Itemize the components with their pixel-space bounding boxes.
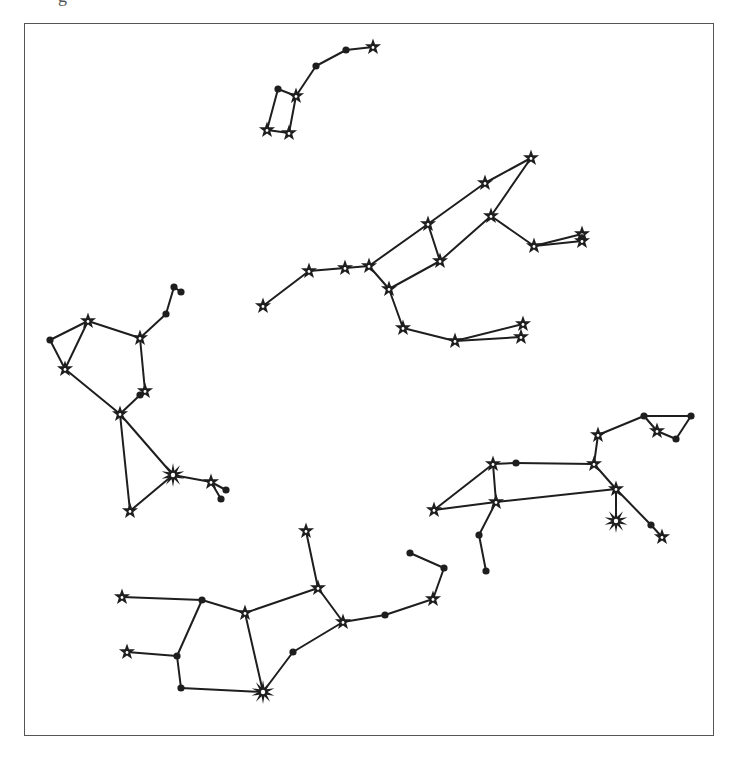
star-icon (365, 39, 381, 54)
star-icon (447, 333, 463, 348)
constellation-canvas (0, 0, 738, 760)
star-icon (337, 260, 353, 275)
constellation-line (50, 340, 65, 369)
constellation-hercules (46, 283, 229, 517)
constellation-line (433, 568, 444, 599)
constellation-line (479, 535, 486, 571)
star-icon (526, 238, 542, 253)
star-icon (80, 313, 96, 328)
constellation-line (245, 613, 263, 692)
constellation-line (496, 489, 616, 502)
constellation-line (130, 475, 173, 511)
star-icon (203, 474, 219, 489)
constellation-line (491, 216, 534, 246)
constellation-line (177, 600, 202, 656)
dim-star-dot-icon (640, 412, 647, 419)
dim-star-dot-icon (687, 412, 694, 419)
constellation-line (120, 395, 140, 414)
constellation-line (389, 289, 403, 328)
star-icon (114, 589, 130, 604)
constellation-line (122, 597, 202, 600)
constellation-line (491, 158, 531, 216)
constellation-line (245, 588, 318, 613)
star-icon (425, 591, 441, 606)
star-icon (281, 125, 297, 140)
constellation-line (140, 338, 145, 391)
constellation-line (120, 414, 130, 511)
constellation-line (267, 89, 278, 130)
constellation-line (343, 615, 385, 622)
star-icon (122, 503, 138, 518)
dim-star-dot-icon (381, 611, 388, 618)
dim-star-dot-icon (342, 46, 349, 53)
dim-star-dot-icon (162, 310, 169, 317)
constellation-line (263, 271, 309, 306)
star-icon (426, 502, 442, 517)
star-icon (488, 494, 504, 509)
dim-star-dot-icon (222, 486, 229, 493)
star-icon (395, 320, 411, 335)
dim-star-dot-icon (198, 596, 205, 603)
constellation-ursa-major (255, 150, 590, 348)
constellation-line (428, 183, 485, 224)
dim-star-dot-icon (46, 336, 53, 343)
star-icon (259, 122, 275, 137)
constellation-line (403, 328, 455, 341)
constellation-line (516, 463, 594, 464)
dim-star-dot-icon (475, 531, 482, 538)
star-icon (361, 258, 377, 273)
dim-star-dot-icon (440, 564, 447, 571)
constellation-line (177, 656, 181, 688)
constellation-line (120, 414, 173, 475)
constellation-line (296, 66, 316, 96)
constellation-line (369, 224, 428, 266)
constellation-line (140, 314, 166, 338)
constellation-line (428, 224, 440, 261)
dim-star-dot-icon (672, 435, 679, 442)
constellation-line (440, 216, 491, 261)
bright-star-burst-icon (605, 509, 628, 533)
constellation-leo (426, 412, 695, 574)
constellation-line (389, 261, 440, 289)
star-icon (513, 329, 529, 344)
star-icon (586, 456, 602, 471)
dim-star-dot-icon (177, 288, 184, 295)
dim-star-dot-icon (647, 521, 654, 528)
dim-star-dot-icon (482, 567, 489, 574)
star-icon (237, 605, 253, 620)
constellation-line (65, 321, 88, 369)
constellation-line (50, 321, 88, 340)
constellation-line (598, 416, 644, 435)
dim-star-dot-icon (512, 459, 519, 466)
constellation-line (293, 622, 343, 652)
dim-star-dot-icon (217, 495, 224, 502)
dim-star-dot-icon (406, 549, 413, 556)
constellation-line (346, 47, 373, 50)
constellation-line (316, 50, 346, 66)
star-icon (523, 150, 539, 165)
constellation-line (385, 599, 433, 615)
constellation-line (485, 158, 531, 183)
constellation-line (306, 531, 318, 588)
dim-star-dot-icon (177, 684, 184, 691)
constellation-line (181, 688, 263, 692)
constellation-line (676, 416, 691, 439)
dim-star-dot-icon (312, 62, 319, 69)
constellation-virgo (114, 523, 448, 705)
dim-star-dot-icon (173, 652, 180, 659)
dim-star-dot-icon (274, 85, 281, 92)
star-icon (119, 644, 135, 659)
dim-star-dot-icon (289, 648, 296, 655)
star-icon (515, 316, 531, 331)
constellation-line (127, 652, 177, 656)
dim-star-dot-icon (136, 391, 143, 398)
constellation-line (410, 553, 444, 568)
dim-star-dot-icon (170, 283, 177, 290)
constellation-little-dipper (259, 39, 381, 140)
constellation-line (65, 369, 120, 414)
star-icon (310, 580, 326, 595)
star-icon (255, 298, 271, 313)
constellation-line (166, 287, 174, 314)
